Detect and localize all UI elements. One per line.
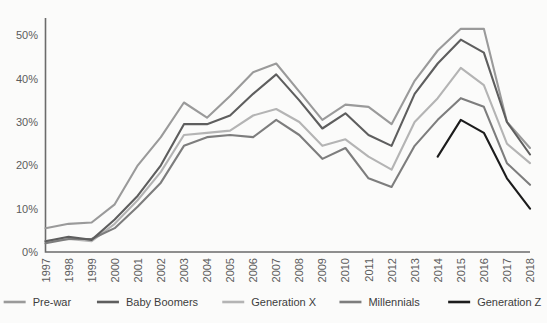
x-tick-label: 2012 [386, 258, 398, 282]
x-tick-label: 2001 [132, 258, 144, 282]
x-tick-label: 1998 [63, 258, 75, 282]
y-tick-label: 10% [16, 203, 38, 215]
chart-legend: Pre-warBaby BoomersGeneration XMillennia… [4, 296, 542, 308]
x-tick-label: 2000 [109, 258, 121, 282]
x-tick-label: 1997 [40, 258, 52, 282]
x-tick-label: 2010 [339, 258, 351, 282]
y-tick-label: 30% [16, 116, 38, 128]
x-axis-tick-labels: 1997199819992000200120022003200420052006… [40, 258, 537, 282]
x-tick-label: 2009 [316, 258, 328, 282]
line-chart: 0%10%20%30%40%50% 1997199819992000200120… [0, 0, 547, 323]
x-tick-label: 1999 [86, 258, 98, 282]
x-tick-label: 2013 [409, 258, 421, 282]
x-tick-label: 2016 [478, 258, 490, 282]
x-tick-label: 2017 [501, 258, 513, 282]
x-tick-label: 2014 [432, 258, 444, 282]
y-axis-tick-labels: 0%10%20%30%40%50% [16, 29, 38, 258]
legend-label: Generation X [251, 296, 316, 308]
legend-label: Baby Boomers [126, 296, 199, 308]
y-tick-label: 50% [16, 29, 38, 41]
x-tick-label: 2003 [178, 258, 190, 282]
x-tick-label: 2005 [224, 258, 236, 282]
y-tick-label: 20% [16, 159, 38, 171]
x-tick-label: 2015 [455, 258, 467, 282]
legend-label: Pre-war [33, 296, 72, 308]
y-tick-label: 40% [16, 73, 38, 85]
x-tick-label: 2002 [155, 258, 167, 282]
legend-label: Millennials [368, 296, 420, 308]
x-tick-label: 2006 [247, 258, 259, 282]
x-tick-label: 2007 [270, 258, 282, 282]
x-tick-label: 2004 [201, 258, 213, 282]
y-tick-label: 0% [22, 246, 38, 258]
chart-container: 0%10%20%30%40%50% 1997199819992000200120… [0, 0, 547, 323]
x-tick-label: 2008 [293, 258, 305, 282]
series-lines [46, 29, 531, 244]
x-tick-label: 2018 [524, 258, 536, 282]
series-line-baby-boomers [46, 40, 531, 242]
x-tick-label: 2011 [363, 258, 375, 282]
legend-label: Generation Z [477, 296, 541, 308]
